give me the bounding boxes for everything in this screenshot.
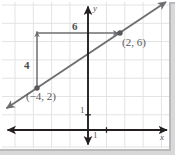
graph-canvas [0, 0, 175, 155]
run-length-label: 6 [72, 21, 78, 32]
y-unit-tick-label: 1 [80, 106, 85, 115]
rise-length-label: 4 [24, 60, 30, 71]
point-label-lower: (−4, 2) [26, 91, 56, 102]
point-label-upper: (2, 6) [122, 37, 146, 48]
y-axis-label: y [93, 4, 97, 13]
x-axis-label: x [160, 133, 164, 142]
point-marker-upper [117, 30, 122, 35]
coordinate-plane-figure: 6 4 (2, 6) (−4, 2) 1 1 y x [0, 0, 175, 155]
x-unit-tick-label: 1 [93, 131, 98, 140]
